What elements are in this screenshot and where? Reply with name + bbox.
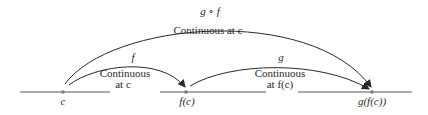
point-fc-label: f(c) xyxy=(179,95,195,108)
point-fc xyxy=(184,90,188,94)
arrow-f-name: f xyxy=(131,51,136,63)
point-gfc xyxy=(370,90,374,94)
point-gfc-label: g(f(c)) xyxy=(358,95,386,108)
arrow-f-caption-2: at c xyxy=(115,78,131,90)
point-c-label: c xyxy=(61,95,66,107)
arrow-gf-name: g ∘ f xyxy=(200,5,221,17)
arrow-g-name: g xyxy=(278,51,284,63)
arrow-gf-caption: Continuous at c xyxy=(173,24,242,36)
arrow-g-caption-2: at f(c) xyxy=(267,78,294,91)
composition-diagram: g ∘ f Continuous at c f Continuous at c … xyxy=(0,0,428,115)
point-c xyxy=(61,90,65,94)
